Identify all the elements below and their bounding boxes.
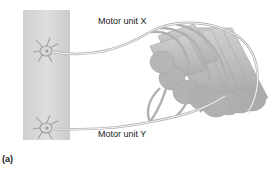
panel-label: (a) — [2, 154, 13, 164]
motor-unit-diagram: Motor unit X Motor unit Y (a) — [0, 0, 273, 169]
spinal-cord — [23, 10, 70, 140]
motor-unit-x-label: Motor unit X — [98, 16, 147, 26]
motor-unit-y-label: Motor unit Y — [98, 129, 146, 139]
neuron-nucleus — [45, 126, 48, 129]
muscle-fiber-end — [150, 51, 174, 73]
neuron-nucleus — [45, 49, 48, 52]
